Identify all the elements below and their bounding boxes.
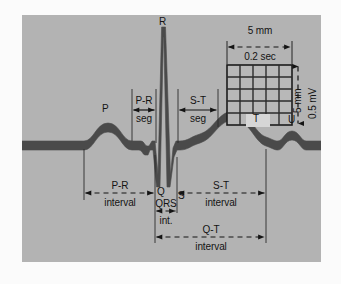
- label-u-wave: U: [288, 115, 295, 126]
- label-pr-interval-name: P-R: [99, 181, 141, 192]
- label-st-seg-name: S-T: [182, 96, 214, 107]
- label-grid-vertical-mm: 5 mm: [293, 88, 304, 113]
- label-r-wave: R: [159, 17, 166, 28]
- label-pr-seg-sub: seg: [128, 114, 160, 125]
- label-grid-horizontal-mm: 5 mm: [229, 26, 291, 37]
- label-grid-horizontal-time: 0.2 sec: [227, 52, 293, 63]
- label-st-interval-name: S-T: [204, 181, 238, 192]
- label-pr-seg-name: P-R: [128, 96, 160, 107]
- label-qrs-interval-sub: int.: [152, 216, 180, 227]
- label-grid-vertical-voltage: 0.5 mV: [308, 88, 319, 119]
- ecg-figure-panel: P R Q S T U P-R seg S-T seg P-R interval…: [22, 15, 321, 262]
- label-qrs-interval-name: QRS: [150, 199, 182, 210]
- label-p-wave: P: [102, 104, 109, 115]
- label-qt-interval-name: Q-T: [194, 225, 228, 236]
- label-st-seg-sub: seg: [182, 114, 214, 125]
- calibration-grid: [227, 65, 292, 127]
- label-q-wave: Q: [157, 187, 165, 198]
- label-t-wave: T: [253, 114, 259, 125]
- label-qt-interval-sub: interval: [185, 242, 237, 253]
- label-pr-interval-sub: interval: [94, 198, 146, 209]
- label-st-interval-sub: interval: [195, 198, 247, 209]
